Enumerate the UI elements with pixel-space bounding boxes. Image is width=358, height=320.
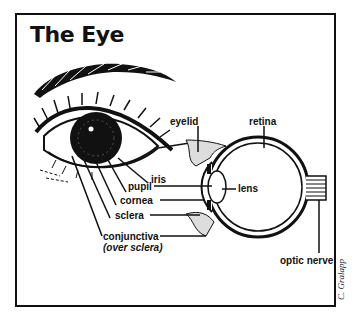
label-conjunctiva-note: (over sclera) <box>103 242 162 253</box>
label-lens: lens <box>238 183 258 194</box>
label-cornea: cornea <box>120 195 153 206</box>
label-sclera: sclera <box>115 210 144 221</box>
external-eye-illustration <box>34 92 172 182</box>
eyebrow-illustration <box>34 63 176 98</box>
artist-credit: C. Gralapp <box>336 259 346 300</box>
label-iris: iris <box>151 174 166 185</box>
diagram-title: The Eye <box>30 22 124 47</box>
diagram-artwork <box>0 0 358 320</box>
label-conjunctiva: conjunctiva <box>103 231 159 242</box>
label-pupil: pupil <box>128 181 152 192</box>
label-optic-nerve: optic nerve <box>280 255 333 266</box>
label-eyelid: eyelid <box>170 116 198 127</box>
eye-diagram: The Eye eyelid retina iris pupil lens co… <box>0 0 358 320</box>
label-retina: retina <box>249 116 276 127</box>
